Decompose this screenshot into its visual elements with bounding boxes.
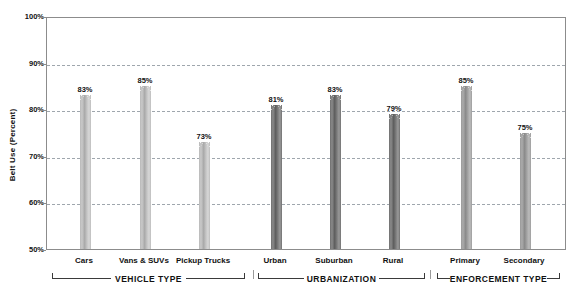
group-separator <box>253 270 254 279</box>
bar-cap <box>520 133 531 138</box>
gridline <box>47 111 565 112</box>
bar-value-label: 73% <box>187 132 221 141</box>
group-bracket-label: ENFORCEMENT TYPE <box>419 274 579 284</box>
bar-chart: Belt Use (Percent) 100%90%80%70%60%50% 8… <box>0 0 584 301</box>
y-tick-label: 70% <box>4 152 44 161</box>
bar-cap <box>461 86 472 91</box>
bar-cap <box>271 105 282 110</box>
bar-fill <box>389 114 400 249</box>
bar-fill <box>461 86 472 249</box>
y-tick-mark <box>40 250 46 251</box>
y-tick-label: 80% <box>4 105 44 114</box>
bar-value-label: 75% <box>508 123 542 132</box>
bar-cap <box>199 142 210 147</box>
bar-fill <box>520 133 531 250</box>
gridline <box>47 204 565 205</box>
bar <box>140 86 151 249</box>
bar <box>389 114 400 249</box>
gridline <box>47 158 565 159</box>
bar-value-label: 85% <box>128 76 162 85</box>
bar <box>199 142 210 249</box>
bar-fill <box>140 86 151 249</box>
y-tick-label: 100% <box>4 12 44 21</box>
bar-fill <box>330 95 341 249</box>
bar-cap <box>389 114 400 119</box>
y-tick-label: 90% <box>4 59 44 68</box>
bar-value-label: 85% <box>449 76 483 85</box>
bar-fill <box>80 95 91 249</box>
bar <box>80 95 91 249</box>
bar <box>330 95 341 249</box>
bar <box>271 105 282 249</box>
y-tick-label: 50% <box>4 245 44 254</box>
bar-value-label: 81% <box>259 95 293 104</box>
bar-cap <box>140 86 151 91</box>
y-tick-label: 60% <box>4 198 44 207</box>
bar-fill <box>199 142 210 249</box>
gridline <box>47 65 565 66</box>
bar-value-label: 79% <box>377 104 411 113</box>
plot-area: 83%85%73%81%83%79%85%75% <box>46 17 566 250</box>
category-label: Secondary <box>479 256 569 265</box>
bar-fill <box>271 105 282 249</box>
bar-cap <box>330 95 341 100</box>
bar-cap <box>80 95 91 100</box>
group-bracket-label: URBANIZATION <box>262 274 422 284</box>
bar-value-label: 83% <box>68 85 102 94</box>
bar <box>520 133 531 250</box>
bar-value-label: 83% <box>318 85 352 94</box>
group-bracket-label: VEHICLE TYPE <box>69 274 229 284</box>
bar <box>461 86 472 249</box>
